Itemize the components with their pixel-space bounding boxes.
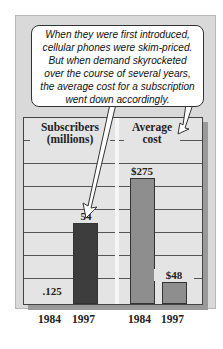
callout-line: went down accordingly. (35, 93, 200, 106)
callout-line: When they were first introduced, (35, 28, 200, 41)
arrow-to-subscribers-icon (83, 104, 116, 218)
callout-line: But when demand skyrocketed (35, 54, 200, 67)
annotation-callout: When they were first introduced, cellula… (31, 25, 204, 107)
callout-line: the average cost for a subscription (35, 80, 200, 93)
arrow-to-cost-icon (178, 104, 193, 134)
callout-line: cellular phones were skim-priced. (35, 41, 200, 54)
callout-line: over the course of several years, (35, 67, 200, 80)
